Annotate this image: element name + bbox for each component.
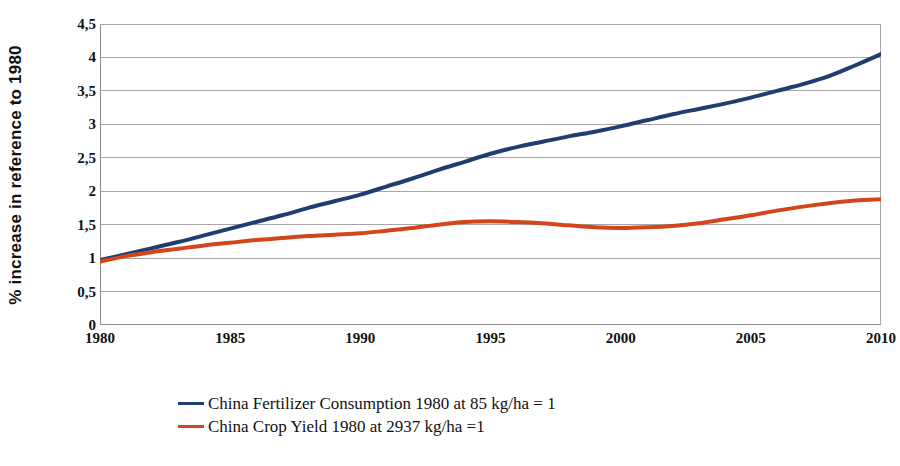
y-axis-title-text: % increase in reference to 1980 <box>6 45 26 304</box>
legend-entry: China Fertilizer Consumption 1980 at 85 … <box>178 392 878 415</box>
x-axis-tick-label: 2010 <box>866 330 896 347</box>
y-axis-tick-label: 4 <box>38 49 96 66</box>
y-axis-tick-label: 2,5 <box>38 149 96 166</box>
x-axis-tick-label: 1995 <box>476 330 506 347</box>
x-axis-tick-label: 1985 <box>215 330 245 347</box>
legend-entry: China Crop Yield 1980 at 2937 kg/ha =1 <box>178 415 878 438</box>
chart-legend: China Fertilizer Consumption 1980 at 85 … <box>178 392 878 438</box>
x-axis-tick-label: 1990 <box>345 330 375 347</box>
gridlines <box>100 24 881 292</box>
legend-color-swatch <box>178 402 204 405</box>
y-axis-tick-label: 0,5 <box>38 283 96 300</box>
plot-svg <box>100 24 881 325</box>
x-axis-tick-labels: 1980198519901995200020052010 <box>100 330 881 354</box>
y-axis-tick-label: 1 <box>38 250 96 267</box>
legend-color-swatch <box>178 425 204 428</box>
axis-lines <box>100 24 881 325</box>
x-axis-tick-label: 1980 <box>85 330 115 347</box>
y-axis-tick-label: 3 <box>38 116 96 133</box>
chart-figure: % increase in reference to 1980 00,511,5… <box>0 0 900 466</box>
y-axis-title: % increase in reference to 1980 <box>0 0 32 350</box>
series-line-1 <box>100 54 881 260</box>
x-axis-tick-label: 2000 <box>606 330 636 347</box>
plot-area <box>100 24 881 325</box>
legend-label: China Crop Yield 1980 at 2937 kg/ha =1 <box>208 418 485 435</box>
x-axis-tick-label: 2005 <box>736 330 766 347</box>
y-axis-tick-label: 1,5 <box>38 216 96 233</box>
legend-label: China Fertilizer Consumption 1980 at 85 … <box>208 395 556 412</box>
y-axis-tick-label: 3,5 <box>38 82 96 99</box>
y-axis-tick-labels: 00,511,522,533,544,5 <box>34 24 96 325</box>
y-axis-tick-label: 2 <box>38 183 96 200</box>
y-axis-tick-label: 4,5 <box>38 16 96 33</box>
